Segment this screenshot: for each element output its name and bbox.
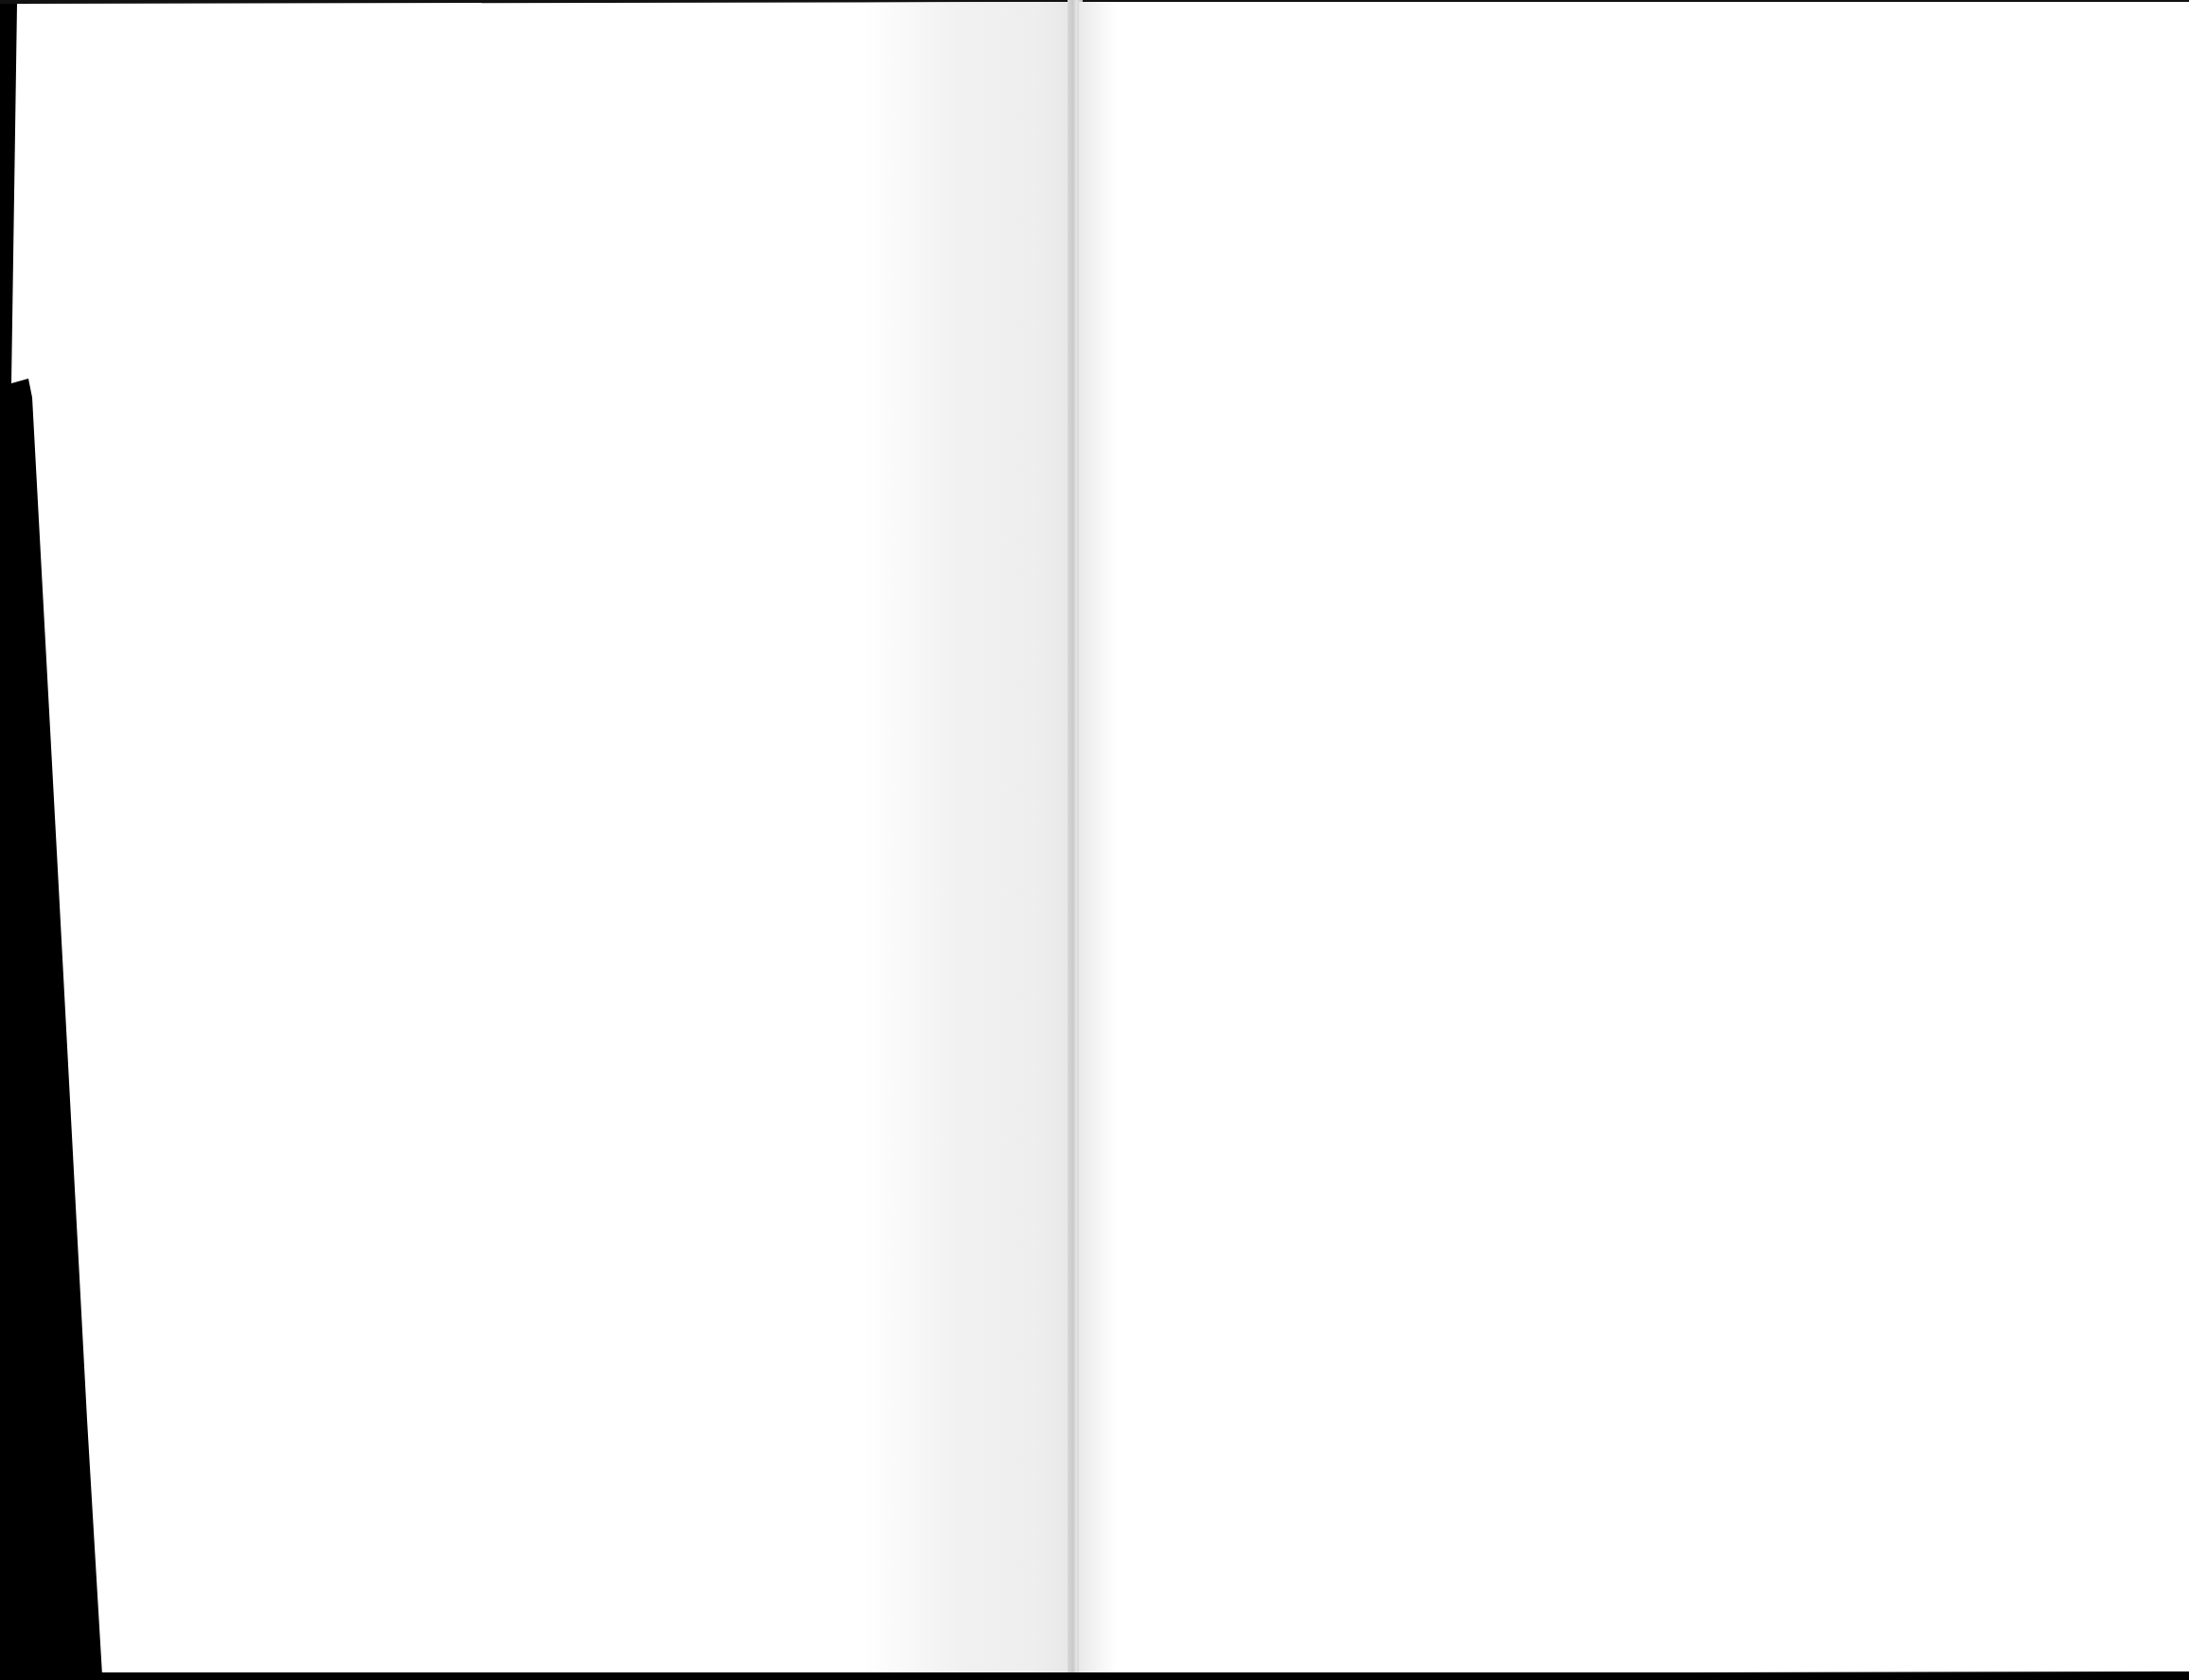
scanned-spread — [0, 0, 2189, 1680]
right-gutter-shadow — [1079, 0, 1117, 1680]
left-page — [0, 0, 1079, 1680]
right-page — [1079, 0, 2189, 1680]
scan-bottom-edge — [0, 1672, 2189, 1680]
left-gutter-shadow — [861, 0, 1079, 1680]
